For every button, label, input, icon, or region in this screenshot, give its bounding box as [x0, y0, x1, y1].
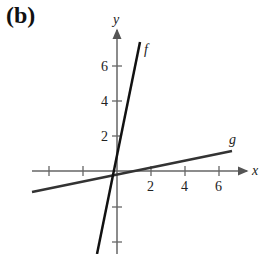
- x-tick-label: 2: [147, 179, 154, 194]
- x-tick-label: 4: [181, 179, 188, 194]
- chart-plot: 2 4 6 6 4 2 x y g f: [0, 0, 266, 254]
- line-g-label: g: [229, 132, 236, 147]
- line-f-label: f: [144, 42, 150, 57]
- y-axis-label: y: [111, 12, 120, 27]
- x-tick-label: 6: [215, 179, 222, 194]
- y-tick-label: 2: [101, 129, 108, 144]
- y-tick-label: 6: [101, 59, 108, 74]
- y-tick-label: 4: [101, 94, 108, 109]
- x-axis-label: x: [251, 163, 259, 178]
